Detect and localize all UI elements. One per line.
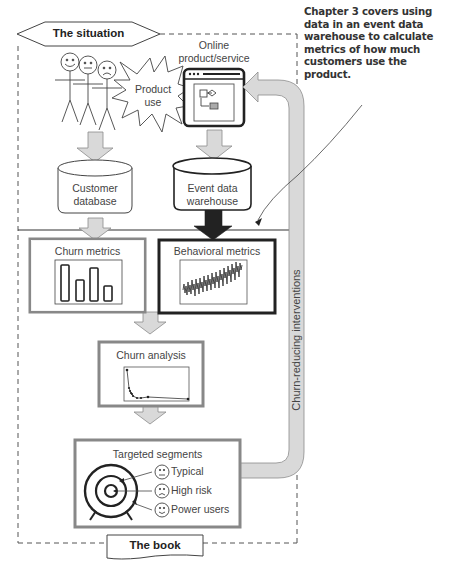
customer-database-line2: database (58, 195, 132, 208)
book-label: The book (107, 539, 203, 552)
churn-metrics-title: Churn metrics (30, 245, 145, 258)
targeted-segments-title: Targeted segments (75, 448, 240, 461)
diagram: The situation The book Product use Onlin… (0, 0, 449, 573)
segment-high-risk-label: High risk (171, 484, 212, 496)
situation-label: The situation (45, 27, 132, 40)
online-product-line1: Online (170, 39, 258, 52)
callout-pointer (258, 105, 362, 220)
online-product-line2: product/service (170, 52, 258, 65)
product-use-line2: use (130, 96, 176, 109)
customers-stick-figures (55, 53, 122, 130)
segment-typical-label: Typical (171, 465, 204, 477)
dark-flow-arrow (194, 209, 232, 240)
churn-reducing-interventions-label: Churn-reducing interventions (290, 269, 302, 410)
product-use-line1: Product (130, 83, 176, 96)
behavioral-metrics-title: Behavioral metrics (159, 245, 275, 258)
customer-database-line1: Customer (58, 182, 132, 195)
segment-power-users-label: Power users (171, 503, 229, 515)
event-data-warehouse-label: Event data warehouse (174, 182, 251, 208)
event-data-warehouse-line2: warehouse (174, 195, 251, 208)
churn-analysis-title: Churn analysis (99, 349, 203, 362)
product-use-label: Product use (130, 83, 176, 109)
event-data-warehouse-line1: Event data (174, 182, 251, 195)
chapter-callout: Chapter 3 covers using data in an event … (304, 6, 449, 82)
online-product-label: Online product/service (170, 39, 258, 65)
online-product-window-icon (184, 69, 244, 126)
customer-database-label: Customer database (58, 182, 132, 208)
